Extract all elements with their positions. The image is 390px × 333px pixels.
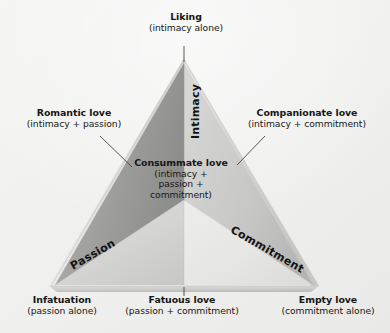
label-consummate-love: Consummate love (intimacy + passion + co… [127,158,235,200]
label-fatuous-title: Fatuous love [112,295,252,306]
label-infatuation-subtitle: (passion alone) [6,306,118,316]
label-romantic-subtitle: (intimacy + passion) [10,119,138,129]
label-consummate-subtitle-2: passion + [127,179,235,189]
label-consummate-title: Consummate love [127,158,235,169]
label-empty-love: Empty love (commitment alone) [268,295,388,316]
label-romantic-title: Romantic love [10,108,138,119]
label-fatuous-love: Fatuous love (passion + commitment) [112,295,252,316]
label-liking-title: Liking [127,12,245,23]
label-liking: Liking (intimacy alone) [127,12,245,33]
label-companionate-title: Companionate love [232,108,382,119]
label-fatuous-subtitle: (passion + commitment) [112,306,252,316]
label-consummate-subtitle-3: commitment) [127,190,235,200]
label-empty-subtitle: (commitment alone) [268,306,388,316]
label-infatuation: Infatuation (passion alone) [6,295,118,316]
label-empty-title: Empty love [268,295,388,306]
triangular-love-diagram: Liking (intimacy alone) Romantic love (i… [0,0,390,333]
edge-label-intimacy: Intimacy [189,84,202,139]
label-romantic-love: Romantic love (intimacy + passion) [10,108,138,129]
label-companionate-subtitle: (intimacy + commitment) [232,119,382,129]
label-infatuation-title: Infatuation [6,295,118,306]
label-liking-subtitle: (intimacy alone) [127,23,245,33]
label-companionate-love: Companionate love (intimacy + commitment… [232,108,382,129]
